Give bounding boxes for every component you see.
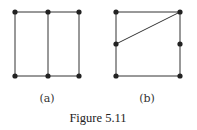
graph-node (113, 73, 118, 78)
graph-b-label: (b) (139, 92, 155, 105)
graph-node (113, 41, 118, 46)
graph-node (113, 9, 118, 14)
figure-caption: Figure 5.11 (69, 111, 126, 126)
graph-node (12, 9, 17, 14)
graph-node (45, 9, 50, 14)
graph-node (12, 73, 17, 78)
graph-node (45, 73, 50, 78)
graph-b (113, 9, 182, 78)
graph-node (177, 73, 182, 78)
graph-node (177, 9, 182, 14)
graph-node (177, 41, 182, 46)
graph-a-label: (a) (39, 92, 54, 105)
graph-node (76, 9, 81, 14)
graph-a (12, 9, 81, 78)
graph-edge (116, 12, 180, 44)
graph-node (76, 73, 81, 78)
